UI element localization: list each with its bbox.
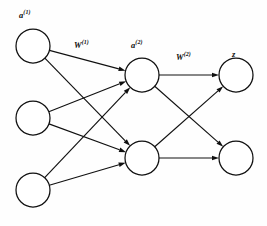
hidden-layer-label-superscript: (2): [135, 39, 142, 45]
arrowhead-icon: [119, 81, 126, 86]
network-graph-canvas: [0, 0, 267, 226]
arrowhead-icon: [118, 67, 125, 71]
weights-2-label-superscript: (2): [184, 51, 191, 57]
connection-line: [49, 50, 118, 68]
connection-line: [155, 86, 218, 142]
connection-line: [45, 58, 125, 141]
weights-1-label: W(1): [74, 41, 89, 50]
input-layer-label-superscript: (1): [23, 9, 30, 15]
weights-2-label: W(2): [176, 53, 191, 62]
neuron-node-output: [219, 58, 253, 92]
neuron-node-input: [16, 173, 50, 207]
node-layer: [16, 29, 253, 207]
connection-line: [49, 165, 119, 185]
neural-network-diagram: a(1) W(1) a(2) W(2) z: [0, 0, 267, 226]
hidden-layer-label: a(2): [131, 41, 143, 50]
connection-line: [155, 91, 218, 147]
weights-1-label-base: W: [74, 40, 82, 50]
arrowhead-icon: [118, 163, 125, 167]
neuron-node-output: [219, 141, 253, 175]
arrowhead-icon: [119, 148, 126, 153]
connection-line: [45, 92, 126, 177]
input-layer-label: a(1): [19, 11, 31, 20]
output-layer-label: z: [232, 50, 235, 59]
weights-1-label-superscript: (1): [82, 39, 89, 45]
output-layer-label-base: z: [232, 49, 235, 59]
neuron-node-input: [16, 29, 50, 63]
arrowhead-icon: [212, 156, 219, 161]
neuron-node-hidden: [125, 141, 159, 175]
connection-line: [49, 84, 120, 112]
arrowhead-icon: [212, 73, 219, 78]
neuron-node-hidden: [125, 58, 159, 92]
neuron-node-input: [16, 101, 50, 135]
weights-2-label-base: W: [176, 52, 184, 62]
